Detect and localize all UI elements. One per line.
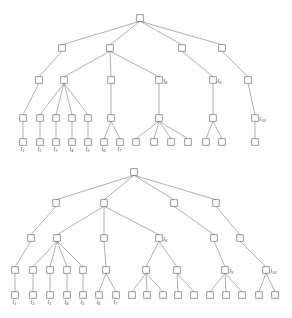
tree-node-l8[interactable] (156, 77, 163, 84)
tree-node-l10[interactable] (263, 267, 270, 274)
tree-edge (111, 121, 120, 139)
tree-node-l1[interactable] (20, 139, 27, 146)
node-label-l9: l9 (229, 267, 234, 275)
tree-node[interactable] (30, 267, 37, 274)
tree-edge (15, 241, 31, 267)
tree-node[interactable] (160, 292, 167, 299)
tree-node[interactable] (85, 115, 92, 122)
tree-bottom-nodes (12, 169, 279, 299)
tree-node[interactable] (213, 200, 220, 207)
tree-node[interactable] (156, 115, 163, 122)
tree-edge (182, 51, 213, 77)
tree-edge (140, 21, 222, 45)
tree-node[interactable] (37, 115, 44, 122)
tree-node[interactable] (47, 267, 54, 274)
tree-node-l5[interactable] (85, 139, 92, 146)
tree-node-l10[interactable] (252, 115, 259, 122)
tree-node[interactable] (107, 45, 114, 52)
tree-node[interactable] (237, 235, 244, 242)
tree-node[interactable] (223, 292, 230, 299)
tree-edge (110, 51, 111, 77)
tree-node[interactable] (210, 115, 217, 122)
tree-node-l4[interactable] (64, 292, 71, 299)
tree-node[interactable] (207, 292, 214, 299)
tree-node-l1[interactable] (12, 292, 19, 299)
tree-node[interactable] (61, 77, 68, 84)
tree-node-l6[interactable] (96, 292, 103, 299)
tree-node-l9[interactable] (210, 77, 217, 84)
tree-node[interactable] (101, 200, 108, 207)
tree-node-l3[interactable] (47, 292, 54, 299)
tree-node[interactable] (53, 115, 60, 122)
tree-node[interactable] (28, 235, 35, 242)
tree-node-l3[interactable] (53, 139, 60, 146)
tree-node-l7[interactable] (117, 139, 124, 146)
tree-edge (64, 83, 72, 115)
node-label-l8: l8 (163, 235, 168, 243)
tree-node[interactable] (191, 292, 198, 299)
tree-node[interactable] (108, 77, 115, 84)
node-label-l3: l3 (54, 145, 59, 153)
tree-node[interactable] (137, 15, 144, 22)
tree-node[interactable] (143, 267, 150, 274)
tree-edge (134, 175, 216, 200)
tree-node[interactable] (179, 45, 186, 52)
tree-node[interactable] (175, 292, 182, 299)
tree-node-l7[interactable] (113, 292, 120, 299)
tree-node[interactable] (133, 139, 140, 146)
tree-node[interactable] (252, 139, 259, 146)
tree-node[interactable] (239, 292, 246, 299)
tree-node[interactable] (219, 45, 226, 52)
tree-node-l5[interactable] (80, 292, 87, 299)
tree-edge (136, 121, 159, 139)
tree-node[interactable] (101, 235, 108, 242)
tree-node[interactable] (272, 292, 279, 299)
tree-node[interactable] (144, 292, 151, 299)
tree-edge (57, 241, 67, 267)
tree-diagram-canvas: l8l9l10l1l2l3l4l5l6l7l8l9l10l1l2l3l4l5l6… (0, 0, 292, 318)
tree-edge (225, 273, 242, 292)
tree-edge (106, 273, 116, 292)
tree-node[interactable] (80, 267, 87, 274)
tree-node[interactable] (131, 169, 138, 176)
tree-node[interactable] (245, 77, 252, 84)
tree-node-l2[interactable] (37, 139, 44, 146)
tree-node-l2[interactable] (30, 292, 37, 299)
tree-edge (110, 51, 159, 77)
tree-node-l9[interactable] (222, 267, 229, 274)
tree-node[interactable] (171, 200, 178, 207)
tree-node[interactable] (64, 267, 71, 274)
tree-node[interactable] (185, 139, 192, 146)
tree-node[interactable] (36, 77, 43, 84)
tree-node[interactable] (69, 115, 76, 122)
tree-node[interactable] (12, 267, 19, 274)
tree-node-l6[interactable] (101, 139, 108, 146)
tree-edge (222, 51, 248, 77)
tree-node[interactable] (20, 115, 27, 122)
tree-node[interactable] (203, 139, 210, 146)
nodes-layer (12, 15, 279, 299)
tree-edge (56, 83, 64, 115)
tree-edge (146, 241, 159, 267)
tree-node[interactable] (211, 235, 218, 242)
node-label-l4: l4 (65, 298, 70, 306)
tree-node[interactable] (174, 267, 181, 274)
tree-node-l4[interactable] (69, 139, 76, 146)
tree-node-l8[interactable] (156, 235, 163, 242)
tree-node[interactable] (59, 45, 66, 52)
tree-node[interactable] (219, 139, 226, 146)
tree-edge (39, 51, 62, 77)
tree-edge (31, 206, 56, 235)
tree-node[interactable] (168, 139, 175, 146)
tree-node[interactable] (108, 115, 115, 122)
tree-node[interactable] (256, 292, 263, 299)
tree-node[interactable] (103, 267, 110, 274)
tree-node[interactable] (151, 139, 158, 146)
edges-layer (15, 21, 275, 292)
tree-node[interactable] (54, 235, 61, 242)
tree-node[interactable] (53, 200, 60, 207)
tree-edge (104, 175, 134, 200)
tree-node[interactable] (129, 292, 136, 299)
tree-bottom-edges (15, 175, 275, 292)
tree-top-nodes (20, 15, 259, 146)
